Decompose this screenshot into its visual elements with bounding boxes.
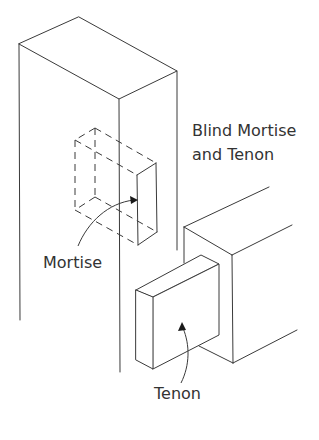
mortise-tenon-diagram: Blind Mortise and Tenon Mortise Tenon	[0, 0, 319, 440]
post-front-edge	[119, 99, 120, 372]
title-line-2: and Tenon	[192, 145, 274, 164]
post-left-edge	[19, 44, 20, 320]
title-line-1: Blind Mortise	[192, 121, 296, 140]
tenon-label: Tenon	[153, 384, 201, 403]
post-top-face	[19, 17, 177, 99]
tenon	[136, 255, 219, 369]
mortise-label: Mortise	[43, 253, 102, 272]
mortise-leader-arrow	[78, 196, 138, 246]
mortise	[75, 128, 157, 245]
